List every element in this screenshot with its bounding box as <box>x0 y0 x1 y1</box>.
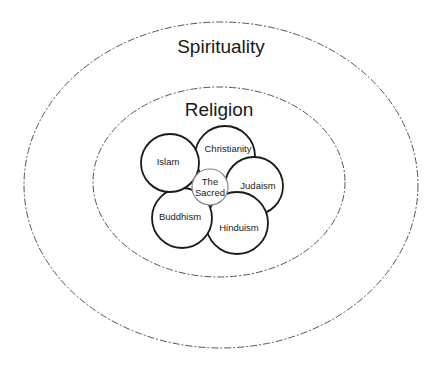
religion-label: Religion <box>185 99 254 120</box>
sacred-label-line1: The <box>202 176 218 187</box>
sacred-node: The Sacred <box>192 169 228 205</box>
religion-label-christianity: Christianity <box>205 143 252 154</box>
spirituality-label: Spirituality <box>177 36 265 57</box>
religion-node-islam: Islam <box>141 134 199 192</box>
religion-label-buddhism: Buddhism <box>159 211 201 222</box>
religion-label-judaism: Judaism <box>240 180 275 191</box>
religion-label-hinduism: Hinduism <box>219 222 259 233</box>
religion-label-islam: Islam <box>157 156 180 167</box>
sacred-label-line2: Sacred <box>195 187 225 198</box>
spirituality-religion-diagram: Spirituality Religion ChristianityJudais… <box>0 0 436 366</box>
